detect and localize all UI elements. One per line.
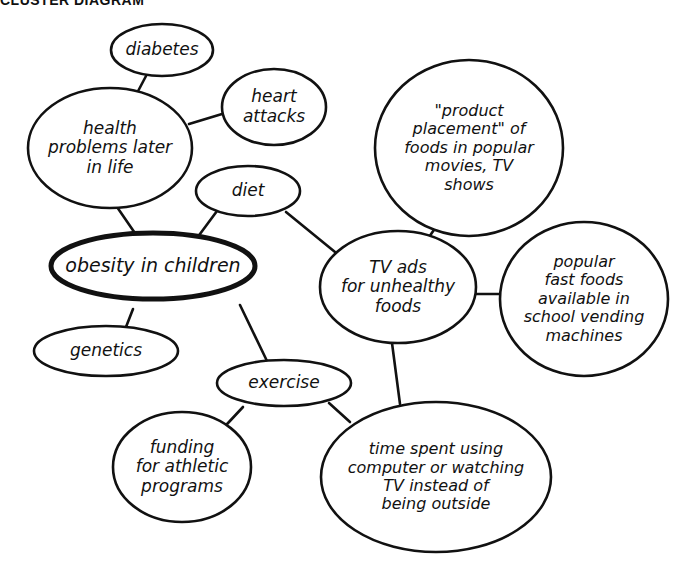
edge-heart-attacks-health-problems bbox=[189, 114, 222, 124]
node-heart-attacks: heart attacks bbox=[222, 69, 326, 145]
node-time-spent: time spent using computer or watching TV… bbox=[321, 402, 551, 552]
node-diabetes: diabetes bbox=[111, 24, 213, 76]
node-tv-ads: TV ads for unhealthy foods bbox=[320, 231, 476, 343]
node-exercise: exercise bbox=[217, 360, 351, 406]
node-obesity: obesity in children bbox=[51, 233, 255, 299]
node-vending: popular fast foods available in school v… bbox=[500, 222, 668, 376]
node-funding: funding for athletic programs bbox=[113, 412, 251, 522]
node-health-problems: health problems later in life bbox=[28, 88, 192, 208]
edge-tv-ads-time-spent bbox=[392, 343, 400, 404]
node-diet: diet bbox=[196, 166, 300, 216]
node-product-placement: "product placement" of foods in popular … bbox=[375, 60, 563, 236]
node-genetics: genetics bbox=[34, 326, 178, 376]
edge-obesity-genetics bbox=[126, 309, 133, 327]
edge-obesity-exercise bbox=[240, 305, 267, 361]
